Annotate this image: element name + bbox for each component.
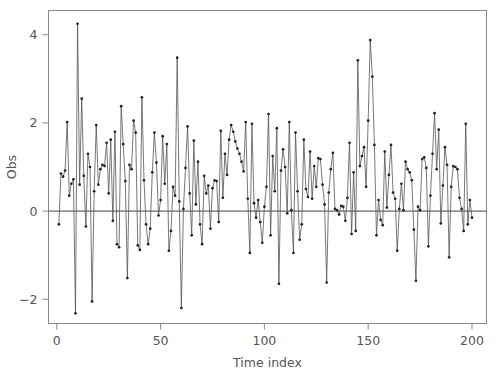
data-point (354, 230, 357, 233)
data-point (72, 178, 75, 181)
data-point (284, 166, 287, 169)
data-point (174, 194, 177, 197)
data-point (307, 196, 310, 199)
data-point (365, 185, 368, 188)
data-point (388, 174, 391, 177)
data-point (363, 146, 366, 149)
data-point (471, 216, 474, 219)
data-point (249, 252, 252, 255)
data-point (286, 212, 289, 215)
data-point (195, 203, 198, 206)
data-point (423, 156, 426, 159)
data-point (178, 200, 181, 203)
data-point (413, 228, 416, 231)
data-point (421, 158, 424, 161)
data-point (70, 182, 73, 185)
data-point (323, 203, 326, 206)
data-point (99, 168, 102, 171)
data-point (78, 183, 81, 186)
data-point (105, 141, 108, 144)
data-point (234, 140, 237, 143)
data-point (280, 169, 283, 172)
data-point (269, 234, 272, 237)
data-point (462, 230, 465, 233)
x-axis-tick-label: 50 (153, 333, 169, 348)
data-point (404, 160, 407, 163)
data-point (342, 205, 345, 208)
data-point (120, 105, 123, 108)
data-point (128, 163, 131, 166)
data-point (157, 214, 160, 217)
data-point (224, 152, 227, 155)
data-point (375, 234, 378, 237)
y-axis-tick-label: −2 (19, 292, 37, 307)
data-point (292, 252, 295, 255)
data-point (444, 146, 447, 149)
data-point (217, 221, 220, 224)
data-point (97, 183, 100, 186)
data-point (267, 113, 270, 116)
data-point (460, 208, 463, 211)
data-point (240, 160, 243, 163)
data-point (450, 185, 453, 188)
data-point (141, 96, 144, 99)
data-point (282, 148, 285, 151)
data-point (278, 282, 281, 285)
data-point (415, 279, 418, 282)
data-point (149, 227, 152, 230)
data-point (62, 175, 65, 178)
x-axis-tick-label: 100 (252, 333, 276, 348)
data-point (348, 141, 351, 144)
data-point (165, 143, 168, 146)
data-point (118, 246, 121, 249)
data-point (112, 219, 115, 222)
y-axis-title: Obs (4, 155, 19, 179)
data-point (163, 182, 166, 185)
data-point (400, 182, 403, 185)
data-point (219, 130, 222, 133)
data-point (458, 197, 461, 200)
data-point (89, 166, 92, 169)
data-point (327, 191, 330, 194)
data-point (91, 300, 94, 303)
y-axis-tick-label: 0 (30, 204, 38, 219)
data-point (58, 223, 61, 226)
data-point (315, 185, 318, 188)
data-point (201, 243, 204, 246)
data-point (309, 150, 312, 153)
data-point (60, 172, 63, 175)
data-point (186, 125, 189, 128)
data-point (265, 185, 268, 188)
data-point (114, 130, 117, 133)
data-point (82, 174, 85, 177)
data-point (406, 168, 409, 171)
data-point (466, 223, 469, 226)
data-point (469, 199, 472, 202)
data-point (161, 135, 164, 138)
data-point (192, 139, 195, 142)
data-point (361, 155, 364, 158)
data-point (448, 256, 451, 259)
data-point (410, 179, 413, 182)
data-point (402, 209, 405, 212)
x-axis-tick-label: 0 (53, 333, 61, 348)
data-point (298, 238, 301, 241)
data-point (442, 184, 445, 187)
data-point (170, 230, 173, 233)
data-point (255, 216, 258, 219)
data-point (369, 39, 372, 42)
data-point (433, 112, 436, 115)
data-point (199, 223, 202, 226)
data-point (155, 161, 158, 164)
data-point (408, 171, 411, 174)
data-point (182, 208, 185, 211)
data-point (379, 219, 382, 222)
data-point (325, 281, 328, 284)
data-point (311, 197, 314, 200)
data-point (103, 165, 106, 168)
data-point (336, 209, 339, 212)
x-axis-tick-label: 150 (356, 333, 380, 348)
data-point (454, 166, 457, 169)
data-point (211, 187, 214, 190)
data-point (398, 208, 401, 211)
